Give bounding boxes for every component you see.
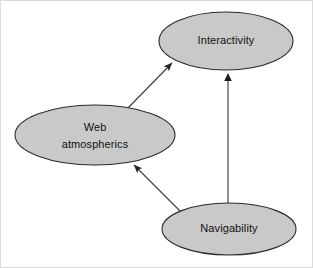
node-web-atmospherics-label-line2: atmospherics — [62, 138, 129, 150]
node-navigability[interactable]: Navigability — [162, 203, 296, 255]
node-navigability-label: Navigability — [200, 222, 258, 234]
node-web-atmospherics[interactable]: Web atmospherics — [15, 105, 175, 165]
node-interactivity[interactable]: Interactivity — [159, 12, 293, 70]
node-web-atmospherics-label-line1: Web — [84, 121, 107, 133]
node-web-atmospherics-ellipse[interactable] — [15, 105, 175, 165]
diagram-canvas: Web atmospherics Interactivity Navigabil… — [0, 0, 313, 268]
node-interactivity-label: Interactivity — [198, 34, 255, 46]
path-diagram: Web atmospherics Interactivity Navigabil… — [0, 0, 313, 268]
